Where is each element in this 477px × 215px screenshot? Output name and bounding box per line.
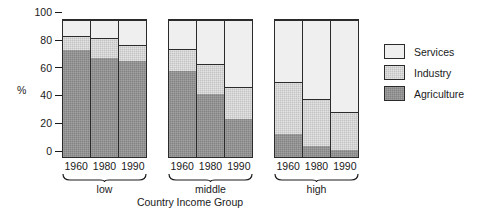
x-tick-label: 1960 bbox=[168, 160, 196, 173]
legend-swatch-services-icon bbox=[384, 44, 405, 59]
x-tick-label: 1960 bbox=[274, 160, 302, 173]
bar-high-1980[interactable] bbox=[303, 20, 331, 157]
segment-services bbox=[225, 20, 252, 87]
segment-industry bbox=[63, 36, 90, 50]
segment-agriculture bbox=[197, 94, 224, 157]
segment-services bbox=[275, 20, 302, 82]
segment-agriculture bbox=[63, 50, 90, 157]
x-tick-label: 1990 bbox=[331, 160, 359, 173]
bar-high-1990[interactable] bbox=[331, 20, 358, 157]
segment-industry bbox=[197, 64, 224, 94]
legend-item-industry[interactable]: Industry bbox=[384, 63, 464, 82]
stacked-bar-chart: 100 80 60 40 20 0 % 1960 bbox=[0, 0, 477, 215]
segment-agriculture bbox=[275, 134, 302, 157]
y-tick-0: 0 bbox=[46, 145, 62, 157]
bar-middle-1990[interactable] bbox=[225, 20, 252, 157]
segment-agriculture bbox=[91, 58, 118, 157]
x-tick-label: 1960 bbox=[62, 160, 90, 173]
segment-industry bbox=[169, 49, 196, 71]
segment-agriculture bbox=[225, 119, 252, 157]
legend-item-agriculture[interactable]: Agriculture bbox=[384, 84, 464, 103]
y-tick-60: 60 bbox=[40, 62, 62, 74]
plot-area-middle bbox=[168, 19, 253, 158]
bar-low-1980[interactable] bbox=[91, 20, 119, 157]
panel-middle bbox=[168, 19, 253, 158]
x-ticks-high: 1960 1980 1990 bbox=[274, 160, 359, 173]
x-tick-label: 1980 bbox=[302, 160, 330, 173]
segment-services bbox=[119, 20, 146, 45]
panel-low bbox=[62, 19, 147, 158]
segment-industry bbox=[275, 82, 302, 134]
y-tick-mark bbox=[55, 67, 62, 68]
x-tick-label: 1980 bbox=[90, 160, 118, 173]
segment-industry bbox=[91, 38, 118, 59]
y-tick-mark bbox=[55, 95, 62, 96]
bar-low-1960[interactable] bbox=[63, 20, 91, 157]
legend-swatch-industry-icon bbox=[384, 65, 405, 80]
y-tick-mark bbox=[55, 12, 62, 13]
group-label-low: low bbox=[62, 182, 147, 196]
x-axis-title: Country Income Group bbox=[0, 196, 380, 208]
segment-services bbox=[197, 20, 224, 64]
legend-item-services[interactable]: Services bbox=[384, 42, 464, 61]
panel-high bbox=[274, 19, 359, 158]
group-brace-low bbox=[62, 173, 147, 182]
legend-swatch-agriculture-icon bbox=[384, 86, 405, 101]
y-tick-mark bbox=[55, 123, 62, 124]
group-brace-high bbox=[274, 173, 359, 182]
group-label-high: high bbox=[274, 182, 359, 196]
segment-industry bbox=[331, 112, 358, 150]
segment-services bbox=[169, 20, 196, 49]
segment-agriculture bbox=[331, 150, 358, 157]
y-tick-100: 100 bbox=[34, 6, 62, 18]
x-tick-label: 1980 bbox=[196, 160, 224, 173]
segment-industry bbox=[225, 87, 252, 119]
segment-services bbox=[331, 20, 358, 112]
y-axis-title: % bbox=[17, 84, 26, 96]
plot-area-low bbox=[62, 19, 147, 158]
legend-label: Industry bbox=[414, 67, 451, 79]
segment-agriculture bbox=[169, 71, 196, 157]
y-tick-mark bbox=[55, 40, 62, 41]
legend-label: Agriculture bbox=[414, 88, 464, 100]
x-ticks-middle: 1960 1980 1990 bbox=[168, 160, 253, 173]
legend: Services Industry Agriculture bbox=[384, 42, 464, 105]
x-tick-label: 1990 bbox=[225, 160, 253, 173]
segment-services bbox=[63, 20, 90, 36]
x-tick-label: 1990 bbox=[119, 160, 147, 173]
segment-industry bbox=[303, 99, 330, 146]
legend-label: Services bbox=[414, 46, 454, 58]
y-tick-mark bbox=[55, 151, 62, 152]
bar-low-1990[interactable] bbox=[119, 20, 146, 157]
segment-services bbox=[91, 20, 118, 38]
segment-agriculture bbox=[119, 61, 146, 157]
group-label-middle: middle bbox=[168, 182, 253, 196]
segment-services bbox=[303, 20, 330, 99]
segment-industry bbox=[119, 45, 146, 61]
y-tick-40: 40 bbox=[40, 89, 62, 101]
group-brace-middle bbox=[168, 173, 253, 182]
x-ticks-low: 1960 1980 1990 bbox=[62, 160, 147, 173]
y-tick-20: 20 bbox=[40, 117, 62, 129]
plot-area-high bbox=[274, 19, 359, 158]
segment-agriculture bbox=[303, 146, 330, 157]
y-tick-80: 80 bbox=[40, 34, 62, 46]
bar-middle-1960[interactable] bbox=[169, 20, 197, 157]
bar-high-1960[interactable] bbox=[275, 20, 303, 157]
y-axis: 100 80 60 40 20 0 bbox=[30, 12, 62, 164]
bar-middle-1980[interactable] bbox=[197, 20, 225, 157]
